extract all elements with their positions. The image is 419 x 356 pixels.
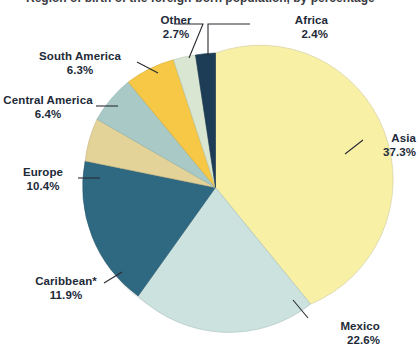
pie-label-mexico: Mexico 22.6% [310, 320, 380, 347]
pie-label-asia-percent: 37.3% [366, 146, 416, 160]
pie-label-other-name: Other [160, 14, 191, 26]
pie-label-central-america-name: Central America [3, 94, 92, 106]
pie-label-caribbean: Caribbean* 11.9% [28, 275, 104, 302]
pie-label-europe: Europe 10.4% [10, 166, 76, 193]
pie-label-asia-name: Asia [391, 132, 416, 144]
pie-label-central-america-percent: 6.4% [0, 108, 96, 122]
pie-label-mexico-name: Mexico [340, 320, 380, 332]
pie-label-south-america: South America 6.3% [28, 50, 132, 77]
pie-label-south-america-percent: 6.3% [28, 64, 132, 78]
pie-label-europe-name: Europe [23, 166, 63, 178]
pie-label-asia: Asia 37.3% [366, 132, 416, 159]
pie-chart-figure: Region of birth of the foreign-born popu… [0, 0, 419, 356]
pie-label-africa-percent: 2.4% [248, 28, 328, 42]
pie-label-central-america: Central America 6.4% [0, 94, 96, 121]
pie-label-caribbean-name: Caribbean* [35, 275, 97, 287]
pie-label-africa: Africa 2.4% [248, 14, 328, 41]
pie-label-africa-name: Africa [295, 14, 328, 26]
pie-label-other-percent: 2.7% [141, 28, 211, 42]
pie-label-other: Other 2.7% [141, 14, 211, 41]
pie-label-mexico-percent: 22.6% [310, 334, 380, 348]
pie-label-caribbean-percent: 11.9% [28, 289, 104, 303]
pie-label-south-america-name: South America [39, 50, 121, 62]
pie-label-europe-percent: 10.4% [10, 180, 76, 194]
